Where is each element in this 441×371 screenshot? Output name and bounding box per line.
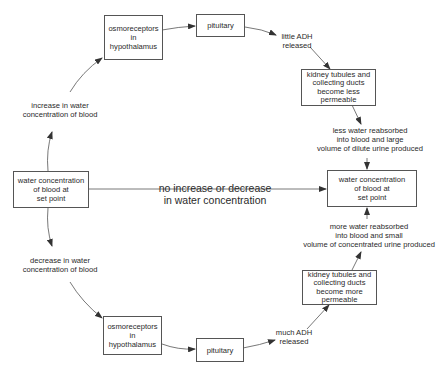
top-pituitary-box: pituitary [196,14,245,37]
less-water-label: less water reabsorbed into blood and lar… [315,126,425,154]
node-text: permeable [307,96,370,105]
node-text: osmoreceptors [106,24,161,33]
no-change-label: no increase or decrease in water concent… [150,182,280,206]
little-adh-label: little ADH released [277,32,317,50]
label-text: into blood and small [300,231,438,240]
node-text: of blood at [339,184,405,193]
label-text: increase in water [20,101,100,110]
arrow-pituitary-to-much-adh [243,340,275,348]
label-text: released [274,337,314,346]
decrease-label: decrease in water concentration of blood [20,256,100,274]
node-text: hypothalamus [107,340,157,349]
arrow-kidney-to-more-water [352,252,361,270]
label-text: volume of dilute urine produced [315,144,425,153]
top-osmoreceptors-box: osmoreceptors in hypothalamus [104,15,163,60]
arrow-kidney-to-less-water [352,105,361,124]
label-text: much ADH [274,328,314,337]
arrow-osmo-to-pituitary [162,26,195,30]
arrow-setpoint-to-decrease [48,208,53,246]
label-text: volume of concentrated urine produced [300,240,438,249]
label-text: released [277,41,317,50]
node-text: set point [339,193,405,202]
label-text: no increase or decrease [150,182,280,194]
arrow-much-adh-to-kidney [307,305,329,329]
right-set-point-box: water concentration of blood at set poin… [327,170,417,207]
arrow-pituitary-to-little-adh [245,27,276,35]
node-text: water concentration [18,176,84,185]
label-text: little ADH [277,32,317,41]
node-text: pituitary [207,21,234,30]
label-text: more water reabsorbed [300,222,438,231]
arrow-setpoint-to-increase [48,132,53,171]
arrow-osmo-to-bottom-pituitary [162,344,195,349]
label-text: concentration of blood [20,110,100,119]
node-text: water concentration [339,175,405,184]
node-text: pituitary [207,346,234,355]
label-text: into blood and large [315,135,425,144]
label-text: decrease in water [20,256,100,265]
more-water-label: more water reabsorbed into blood and sma… [300,222,438,250]
node-text: permeable [308,296,371,305]
bottom-kidney-box: kidney tubules and collecting ducts beco… [302,270,377,305]
bottom-pituitary-box: pituitary [196,338,244,362]
top-kidney-box: kidney tubules and collecting ducts beco… [301,69,376,106]
increase-label: increase in water concentration of blood [20,101,100,119]
node-text: of blood at [18,185,84,194]
arrow-decrease-to-osmoreceptors [70,282,102,318]
label-text: in water concentration [150,194,280,206]
node-text: osmoreceptors [107,322,157,331]
bottom-osmoreceptors-box: osmoreceptors in hypothalamus [103,316,162,355]
node-text: in hypothalamus [106,33,161,51]
label-text: less water reabsorbed [315,126,425,135]
label-text: concentration of blood [20,265,100,274]
node-text: set point [18,194,84,203]
node-text: in [107,331,157,340]
arrow-increase-to-osmoreceptors [70,58,102,92]
left-set-point-box: water concentration of blood at set poin… [13,171,89,208]
much-adh-label: much ADH released [274,328,314,346]
